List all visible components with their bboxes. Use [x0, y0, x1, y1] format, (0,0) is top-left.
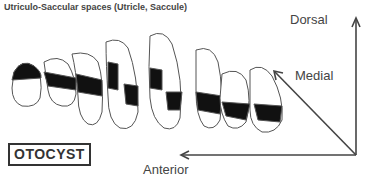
medial-label: Medial [295, 68, 333, 83]
section-8 [250, 67, 282, 132]
anterior-label: Anterior [143, 162, 189, 177]
section-5 [149, 33, 182, 129]
otocyst-diagram: Utriculo-Saccular spaces (Utricle, Saccu… [0, 0, 367, 181]
section-2 [44, 58, 76, 106]
dorsal-label: Dorsal [290, 12, 328, 27]
section-6 [196, 49, 222, 129]
medial-axis [275, 72, 356, 155]
section-7 [220, 71, 250, 128]
section-1 [12, 63, 41, 106]
section-3 [72, 53, 103, 125]
section-4 [106, 40, 138, 129]
otocyst-label-box: OTOCYST [8, 143, 91, 166]
